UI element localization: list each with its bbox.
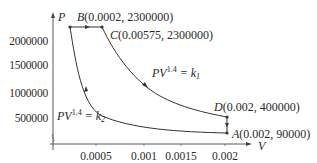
- equation-k2: PV1.4 = k2: [57, 107, 105, 126]
- label-point-c: C(0.00575, 2300000): [110, 29, 213, 41]
- point-c: [100, 25, 103, 28]
- x-tick-0.001: 0.001: [131, 150, 157, 162]
- y-axis: [51, 12, 55, 150]
- label-point-a: A(0.002, 90000): [232, 128, 310, 140]
- point-d: [225, 115, 228, 118]
- arrow-up-icon: [84, 86, 88, 92]
- arrow-right-icon: [85, 25, 90, 29]
- point-a: [225, 131, 228, 134]
- x-axis-arrow-icon: [246, 142, 252, 146]
- label-point-d: D(0.002, 400000): [214, 101, 300, 113]
- path-b-to-c: [70, 25, 102, 29]
- y-axis-arrow-icon: [51, 12, 55, 18]
- x-tick-0.0005: 0.0005: [80, 150, 112, 162]
- path-d-to-a: [225, 117, 229, 133]
- equation-k1: PV1.4 = k1: [152, 64, 200, 83]
- x-tick-0.002: 0.002: [212, 150, 238, 162]
- y-axis-label: P: [58, 11, 65, 23]
- axis-break-icon: [52, 134, 54, 142]
- x-axis-label: V: [258, 140, 265, 152]
- y-tick-500000: 500000: [0, 112, 48, 124]
- y-tick-1500000: 1500000: [0, 59, 48, 71]
- arrow-down-icon: [225, 123, 229, 127]
- label-point-b: B(0.0002, 2300000): [77, 11, 173, 23]
- x-tick-0.0015: 0.0015: [165, 150, 197, 162]
- arrow-down-icon: [142, 82, 148, 88]
- x-axis: [50, 142, 252, 146]
- y-tick-1000000: 1000000: [0, 87, 48, 99]
- point-b: [68, 25, 71, 28]
- y-tick-2000000: 2000000: [0, 35, 48, 47]
